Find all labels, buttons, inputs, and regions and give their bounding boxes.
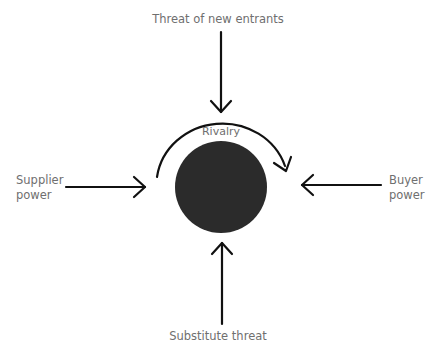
- arrow-left-icon: [302, 175, 381, 195]
- supplier-power-line2: power: [16, 188, 76, 203]
- arrow-down-icon: [211, 32, 231, 112]
- supplier-power-label: Supplier power: [16, 173, 76, 203]
- arrow-up-icon: [212, 243, 232, 324]
- rivalry-label: Rivalry: [171, 124, 271, 139]
- buyer-power-line2: power: [389, 188, 434, 203]
- core-circle: [175, 141, 267, 233]
- supplier-power-line1: Supplier: [16, 173, 76, 188]
- substitute-threat-label: Substitute threat: [0, 329, 436, 344]
- arrow-right-icon: [66, 177, 145, 197]
- buyer-power-line1: Buyer: [389, 173, 434, 188]
- buyer-power-label: Buyer power: [389, 173, 434, 203]
- threat-of-new-entrants-label: Threat of new entrants: [0, 12, 436, 27]
